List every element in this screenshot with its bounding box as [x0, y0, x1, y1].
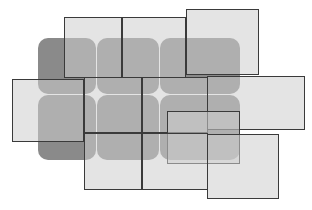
translucent-frame	[12, 79, 84, 142]
translucent-frame	[84, 133, 142, 190]
translucent-frame	[207, 134, 279, 199]
translucent-frame	[186, 9, 259, 75]
translucent-frame	[64, 17, 122, 78]
translucent-frame	[122, 17, 186, 78]
translucent-frame	[84, 77, 142, 133]
translucent-frame	[142, 133, 208, 190]
